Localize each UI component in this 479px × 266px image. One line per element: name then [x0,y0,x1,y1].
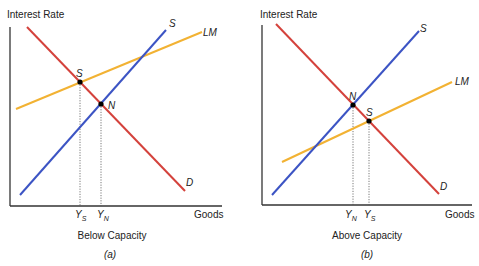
point-s-label: S [76,68,83,79]
panel-b: Interest Rate N S S LM D YN YS Goods Abo… [260,9,474,260]
x-axis-label: Goods [445,209,474,220]
panel-a: Interest Rate S N S LM D YS YN Goods Bel… [7,9,223,260]
y-axis-label: Interest Rate [260,9,318,20]
supply-label: S [420,23,427,34]
point-n [350,102,355,107]
demand-curve [276,24,439,194]
lm-label: LM [455,76,470,87]
point-n-label: N [108,100,116,111]
panel-label: (a) [104,249,116,260]
ys-tick-label: YS [364,209,376,222]
point-s [366,118,371,123]
lm-label: LM [203,27,218,38]
point-s [77,79,82,84]
caption: Above Capacity [332,230,402,241]
yn-tick-label: YN [345,209,358,222]
point-s-label: S [366,107,373,118]
x-axis-label: Goods [194,209,223,220]
ys-tick-label: YS [75,209,87,222]
yn-tick-label: YN [97,209,110,222]
y-axis-label: Interest Rate [7,9,65,20]
point-n-label: N [349,91,357,102]
demand-curve [27,27,185,191]
supply-curve [20,30,166,195]
point-n [98,101,103,106]
supply-curve [272,31,419,195]
panel-label: (b) [361,249,373,260]
demand-label: D [186,177,193,188]
caption: Below Capacity [78,230,147,241]
supply-label: S [169,18,176,29]
demand-label: D [440,181,447,192]
diagram-canvas: Interest Rate S N S LM D YS YN Goods Bel… [0,0,479,266]
